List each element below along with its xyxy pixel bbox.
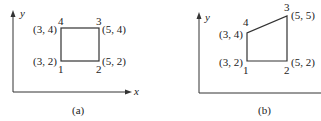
figure-canvas: y x 4 (3, 4) 3 (5, 4) (3, 2) 1 (5, 2) 2 … bbox=[0, 0, 321, 121]
vertex-3-id: 3 bbox=[284, 1, 290, 13]
x-axis-arrow-icon bbox=[125, 90, 132, 95]
vertex-1-id: 1 bbox=[58, 63, 64, 75]
panel-b: y 4 (3, 4) 3 (5, 5) (3, 2) 1 (5, 2) 2 (b… bbox=[197, 1, 321, 117]
vertex-2-id: 2 bbox=[96, 63, 102, 75]
x-axis-label-a: x bbox=[133, 85, 139, 97]
caption-a: (a) bbox=[72, 104, 85, 117]
vertex-4-coord: (3, 4) bbox=[33, 23, 57, 36]
vertex-1-coord: (3, 2) bbox=[33, 55, 57, 68]
vertex-4-coord: (3, 4) bbox=[219, 28, 243, 41]
panel-a: y x 4 (3, 4) 3 (5, 4) (3, 2) 1 (5, 2) 2 … bbox=[11, 7, 140, 117]
vertex-2-coord: (5, 2) bbox=[291, 56, 315, 69]
rectangle-shape bbox=[61, 28, 99, 61]
vertex-3-coord: (5, 4) bbox=[102, 23, 126, 36]
y-axis-arrow-icon bbox=[197, 12, 202, 19]
vertex-1-id: 1 bbox=[243, 64, 249, 76]
vertex-1-coord: (3, 2) bbox=[219, 56, 243, 69]
quadrilateral-shape bbox=[247, 16, 287, 61]
y-axis-label-b: y bbox=[204, 11, 210, 23]
caption-b: (b) bbox=[258, 104, 271, 117]
vertex-2-id: 2 bbox=[284, 64, 290, 76]
y-axis-arrow-icon bbox=[11, 10, 16, 17]
y-axis-label-a: y bbox=[19, 7, 25, 19]
vertex-2-coord: (5, 2) bbox=[102, 55, 126, 68]
vertex-3-coord: (5, 5) bbox=[291, 9, 315, 22]
vertex-4-id: 4 bbox=[58, 15, 64, 27]
vertex-4-id: 4 bbox=[243, 16, 249, 28]
